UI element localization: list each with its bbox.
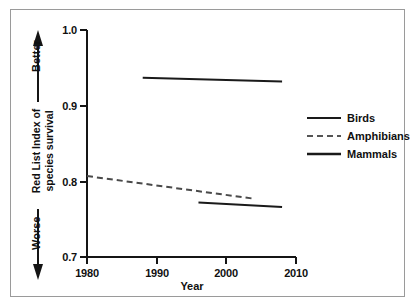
annotation-worse: Worse [30, 217, 42, 250]
x-tick-label-2000: 2000 [206, 267, 246, 279]
y-tick-label-0-7: 0.7 [51, 251, 77, 263]
y-axis-title-line1: Red List Index of [30, 96, 43, 206]
legend-label-amphibians: Amphibians [347, 130, 410, 142]
y-tick-label-1-0: 1.0 [51, 24, 77, 36]
chart-figure: 1.0 0.9 0.8 0.7 1980 1990 2000 2010 Year… [0, 0, 415, 307]
y-axis-title-text: Red List Index of species survival [30, 96, 60, 206]
legend-label-mammals: Mammals [347, 148, 397, 160]
x-tick-label-2010: 2010 [276, 267, 316, 279]
series-line-birds [143, 78, 282, 82]
series-line-amphibians [87, 176, 254, 199]
annotation-better: Better [30, 40, 42, 72]
y-axis-title: Red List Index of species survival [30, 96, 60, 206]
x-tick-label-1980: 1980 [67, 267, 107, 279]
y-axis-title-line2: species survival [43, 96, 56, 206]
x-axis-title: Year [152, 280, 232, 292]
legend-label-birds: Birds [347, 112, 375, 124]
x-tick-label-1990: 1990 [137, 267, 177, 279]
series-line-mammals [198, 203, 282, 208]
